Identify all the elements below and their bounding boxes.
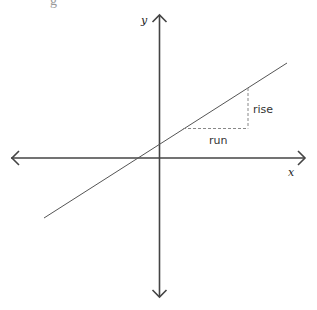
sloped-line bbox=[44, 63, 287, 218]
y-axis bbox=[153, 15, 167, 297]
coordinate-diagram: g y x rise run bbox=[0, 0, 317, 310]
x-axis bbox=[11, 151, 305, 165]
run-label: run bbox=[209, 134, 227, 147]
title-fragment: g bbox=[50, 0, 57, 8]
rise-label: rise bbox=[253, 103, 273, 116]
y-axis-label: y bbox=[140, 14, 148, 27]
x-axis-label: x bbox=[288, 166, 295, 179]
